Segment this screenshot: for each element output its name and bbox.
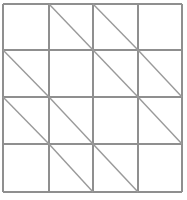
grid-cell <box>93 97 138 144</box>
grid-cell <box>49 50 93 97</box>
grid-cell <box>3 4 49 50</box>
grid-cell <box>138 4 182 50</box>
grid-cell <box>138 144 182 192</box>
grid-cell <box>3 144 49 192</box>
diagonal-tiling-grid <box>0 0 187 200</box>
figure-root <box>0 0 187 200</box>
